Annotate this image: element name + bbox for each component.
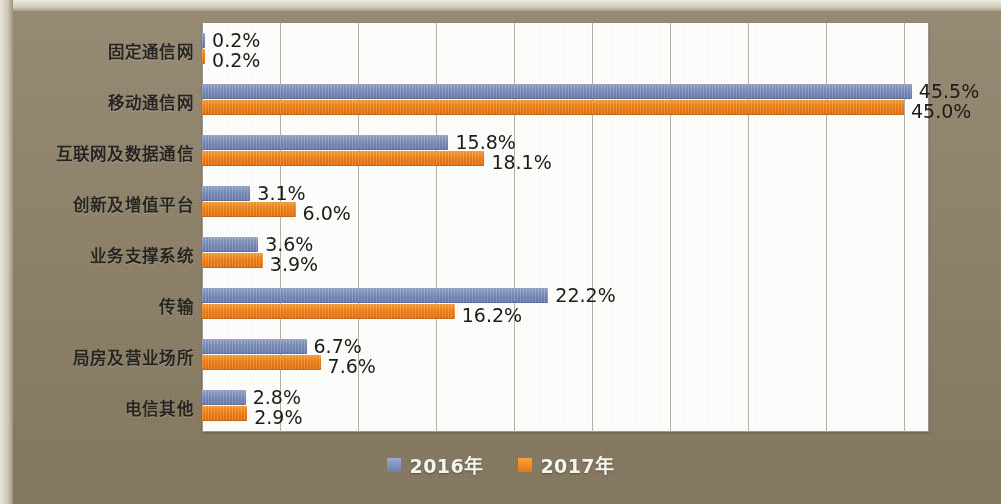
bar-value-label: 45.5% — [919, 82, 979, 101]
bar-value-label: 22.2% — [555, 286, 615, 305]
category-label-1: 移动通信网 — [12, 90, 194, 114]
legend-swatch-2016-icon — [387, 458, 401, 472]
bar-value-label: 2.9% — [254, 408, 302, 427]
category-label-5: 传输 — [12, 294, 194, 318]
chart-row: 移动通信网45.5%45.0% — [13, 74, 988, 125]
bar-2017年-传输 — [202, 304, 455, 319]
category-label-4: 业务支撑系统 — [12, 243, 194, 267]
chart-row: 电信其他2.8%2.9% — [13, 381, 988, 432]
chart-legend: 2016年 2017年 — [13, 451, 988, 478]
bar-value-label: 6.7% — [314, 337, 362, 356]
bar-2016年-传输 — [202, 288, 548, 303]
bar-2016年-移动通信网 — [202, 84, 912, 99]
chart-row: 局房及营业场所6.7%7.6% — [13, 330, 988, 381]
bar-2017年-电信其他 — [202, 406, 247, 421]
legend-item-2017[interactable]: 2017年 — [518, 451, 615, 478]
bar-value-label: 2.8% — [253, 388, 301, 407]
chart-row: 传输22.2%16.2% — [13, 279, 988, 330]
bar-2017年-业务支撑系统 — [202, 253, 263, 268]
bar-2016年-局房及营业场所 — [202, 339, 307, 354]
bar-value-label: 15.8% — [455, 133, 515, 152]
legend-label-2016: 2016年 — [410, 451, 484, 478]
bar-value-label: 0.2% — [212, 51, 260, 70]
bar-value-label: 6.0% — [303, 204, 351, 223]
chart-row: 创新及增值平台3.1%6.0% — [13, 176, 988, 227]
category-label-2: 互联网及数据通信 — [12, 141, 194, 165]
page-edge-top — [0, 0, 1001, 11]
bar-value-label: 45.0% — [911, 102, 971, 121]
category-label-7: 电信其他 — [12, 396, 194, 420]
category-label-0: 固定通信网 — [12, 39, 194, 63]
bar-value-label: 3.1% — [257, 184, 305, 203]
bar-value-label: 0.2% — [212, 31, 260, 50]
legend-swatch-2017-icon — [518, 458, 532, 472]
bar-value-label: 16.2% — [462, 306, 522, 325]
bar-value-label: 3.6% — [265, 235, 313, 254]
slide-background: 固定通信网0.2%0.2%移动通信网45.5%45.0%互联网及数据通信15.8… — [0, 0, 1001, 504]
bar-2017年-移动通信网 — [202, 100, 904, 115]
category-label-3: 创新及增值平台 — [12, 192, 194, 216]
bar-2016年-创新及增值平台 — [202, 186, 250, 201]
bar-2016年-电信其他 — [202, 390, 246, 405]
bar-2016年-互联网及数据通信 — [202, 135, 448, 150]
chart-row: 固定通信网0.2%0.2% — [13, 23, 988, 74]
bar-2017年-局房及营业场所 — [202, 355, 321, 370]
bar-2016年-业务支撑系统 — [202, 237, 258, 252]
bar-value-label: 7.6% — [328, 357, 376, 376]
bar-2017年-固定通信网 — [202, 49, 205, 64]
chart-row: 业务支撑系统3.6%3.9% — [13, 228, 988, 279]
bar-chart: 固定通信网0.2%0.2%移动通信网45.5%45.0%互联网及数据通信15.8… — [13, 11, 988, 489]
legend-label-2017: 2017年 — [541, 451, 615, 478]
bar-2017年-创新及增值平台 — [202, 202, 296, 217]
legend-item-2016[interactable]: 2016年 — [387, 451, 484, 478]
chart-row: 互联网及数据通信15.8%18.1% — [13, 125, 988, 176]
bar-2016年-固定通信网 — [202, 33, 205, 48]
bar-value-label: 3.9% — [270, 255, 318, 274]
category-label-6: 局房及营业场所 — [12, 345, 194, 369]
bar-2017年-互联网及数据通信 — [202, 151, 484, 166]
bar-value-label: 18.1% — [491, 153, 551, 172]
